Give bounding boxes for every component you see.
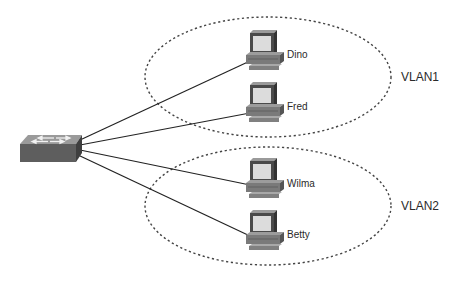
vlan1-label: VLAN1 [401,70,439,84]
vlan2-label: VLAN2 [401,199,439,213]
network-diagram [0,0,463,281]
link-switch-dino [80,61,250,140]
host-label-betty: Betty [287,229,310,240]
host-label-dino: Dino [287,49,308,60]
link-switch-fred [80,113,250,145]
pc-icon-betty[interactable] [246,210,284,250]
host-label-fred: Fred [287,101,308,112]
pc-icon-fred[interactable] [246,82,284,122]
host-label-wilma: Wilma [287,178,315,189]
switch-icon[interactable] [20,135,82,162]
pc-icon-wilma[interactable] [246,158,284,198]
pc-icon-dino[interactable] [246,30,284,70]
